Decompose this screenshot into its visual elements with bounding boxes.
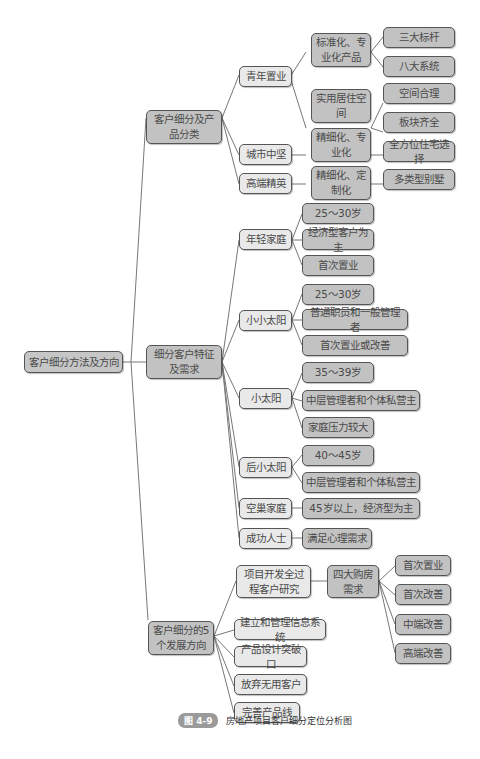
leaf-first-upgrade: 首次改善 [395, 584, 451, 605]
leaf-staff-managers: 普通职员和一般管理者 [302, 309, 408, 330]
node-youth-home: 青年置业 [239, 66, 292, 87]
leaf-first-purchase-a: 首次置业 [302, 255, 374, 276]
leaf-reasonable-space: 空间合理 [383, 83, 455, 104]
leaf-mid-managers-b: 中层管理者和个体私营主 [302, 472, 420, 493]
leaf-all-round-housing: 全方位住宅选择 [383, 141, 455, 162]
leaf-age-35-39: 35～39岁 [302, 362, 374, 383]
leaf-first-purchase-b: 首次置业 [395, 555, 451, 576]
leaf-first-or-upgrade: 首次置业或改善 [302, 335, 408, 356]
node-young-family: 年轻家庭 [239, 229, 292, 250]
branch-customer-segmentation: 客户细分及产品分类 [146, 110, 222, 144]
leaf-economy-customers: 经济型客户为主 [302, 229, 374, 250]
figure-title: 房地产项目客户细分定位分析图 [226, 714, 352, 727]
node-full-process-research: 项目开发全过程客户研究 [236, 565, 311, 598]
node-empty-nest: 空巢家庭 [239, 498, 292, 519]
node-small-sun: 小太阳 [239, 388, 292, 409]
figure-caption: 图 4-9 房地产项目客户细分定位分析图 [178, 713, 352, 728]
leaf-three-benchmarks: 三大标杆 [383, 27, 455, 48]
node-refined-professional: 精细化、专业化 [311, 128, 371, 162]
leaf-age-25-30-a: 25～30岁 [302, 203, 374, 224]
leaf-family-pressure: 家庭压力较大 [302, 417, 374, 438]
leaf-eight-systems: 八大系统 [383, 56, 455, 77]
leaf-psychological-needs: 满足心理需求 [302, 528, 372, 549]
leaf-villa-types: 多类型别墅 [383, 169, 455, 190]
node-standardized-product: 标准化、专业化产品 [311, 33, 371, 67]
node-four-demands: 四大购房需求 [327, 565, 379, 598]
node-info-system: 建立和管理信息系统 [234, 619, 326, 640]
leaf-mid-managers-a: 中层管理者和个体私营主 [302, 390, 420, 411]
leaf-high-upgrade: 高端改善 [395, 643, 451, 664]
node-little-sun: 小小太阳 [239, 310, 292, 331]
node-practical-space: 实用居住空间 [311, 89, 371, 123]
node-high-end-elite: 高端精英 [239, 173, 292, 194]
node-product-design: 产品设计突破口 [234, 646, 307, 667]
figure-number-badge: 图 4-9 [178, 713, 218, 728]
leaf-age-40-45: 40～45岁 [302, 445, 374, 466]
node-successful-people: 成功人士 [239, 528, 292, 549]
node-refined-custom: 精细化、定制化 [311, 166, 371, 200]
leaf-mid-upgrade: 中端改善 [395, 614, 451, 635]
branch-customer-characteristics: 细分客户特征及需求 [146, 345, 222, 379]
branch-development-directions: 客户细分的5个发展方向 [148, 621, 214, 655]
node-post-small-sun: 后小太阳 [239, 457, 292, 478]
node-abandon-customers: 放弃无用客户 [234, 674, 307, 695]
leaf-age-25-30-b: 25～30岁 [302, 284, 374, 305]
node-urban-core: 城市中坚 [239, 144, 292, 165]
leaf-complete-blocks: 板块齐全 [383, 112, 455, 133]
root-node: 客户细分方法及方向 [24, 351, 123, 373]
leaf-over-45: 45岁以上，经济型为主 [302, 498, 420, 519]
